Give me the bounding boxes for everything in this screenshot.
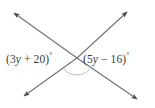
right-label-operator: −	[98, 53, 111, 65]
right-label-degree-symbol: °	[126, 51, 129, 60]
right-label-constant: 16)	[111, 53, 127, 65]
right-angle-label: (5y − 16)°	[83, 52, 129, 65]
bottom-angle-arc	[64, 69, 90, 75]
left-angle-label: (3y + 20)°	[6, 52, 52, 65]
left-label-prefix: (3	[6, 53, 16, 65]
right-label-prefix: (5	[83, 53, 93, 65]
left-label-constant: 20)	[34, 53, 50, 65]
left-label-degree-symbol: °	[49, 51, 52, 60]
angle-diagram-figure: (3y + 20)° (5y − 16)°	[0, 0, 155, 108]
left-label-operator: +	[21, 53, 34, 65]
